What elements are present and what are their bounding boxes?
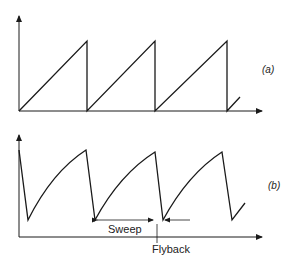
panel-b: Sweep Flyback (b) — [19, 135, 280, 255]
panel-b-label: (b) — [268, 180, 280, 191]
linear-sawtooth-waveform — [19, 41, 240, 111]
panel-a-label: (a) — [262, 64, 274, 75]
sweep-label: Sweep — [108, 223, 142, 235]
exponential-sawtooth-waveform — [19, 150, 245, 220]
sawtooth-diagram: (a) Sweep Flyback (b) — [0, 0, 292, 259]
panel-a: (a) — [19, 16, 274, 111]
flyback-label: Flyback — [152, 243, 190, 255]
